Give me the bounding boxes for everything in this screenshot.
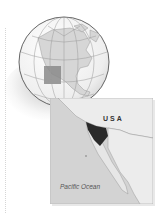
- ocean-label: Pacific Ocean: [60, 183, 100, 190]
- globe-map: [18, 16, 110, 108]
- country-label: USA: [103, 115, 124, 122]
- dotted-margin-rule: [5, 28, 6, 213]
